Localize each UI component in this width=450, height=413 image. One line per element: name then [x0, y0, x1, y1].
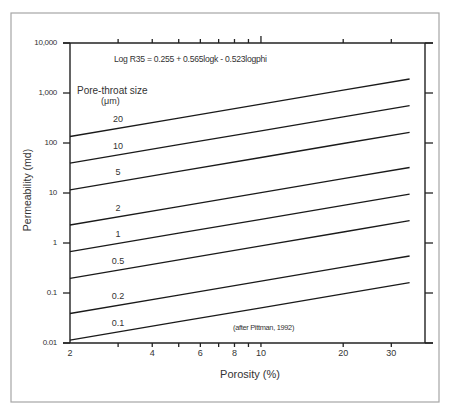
series-label: 1 [115, 229, 120, 239]
series-label: 0.5 [112, 256, 125, 266]
series-label: 5 [115, 167, 120, 177]
x-axis-label: Porosity (%) [220, 368, 280, 380]
legend-title: Pore-throat size [77, 85, 148, 96]
y-tick-label: 100 [45, 138, 58, 147]
x-tick-label: 2 [67, 348, 72, 358]
chart-figure: 10,000 1,000 100 10 1 0.1 0.01 2 4 6 8 1… [0, 0, 450, 413]
y-tick-label: 10 [49, 188, 58, 197]
x-tick-label: 30 [386, 348, 396, 358]
series-label: 2 [115, 203, 120, 213]
series-label: 0.1 [112, 318, 125, 328]
series-label: 10 [113, 141, 123, 151]
x-tick-label: 10 [256, 348, 266, 358]
source-annotation: (after Pittman, 1992) [233, 323, 294, 332]
x-tick-label: 6 [198, 348, 203, 358]
series-label: 0.2 [112, 291, 125, 301]
y-tick-label: 0.1 [47, 288, 58, 297]
series-label: 20 [113, 114, 123, 124]
y-axis-label: Permeability (md) [21, 149, 33, 231]
y-tick-label: 0.01 [43, 338, 58, 347]
y-tick-label: 10,000 [34, 38, 58, 47]
x-tick-label: 8 [232, 348, 237, 358]
x-tick-label: 4 [150, 348, 155, 358]
x-tick-label: 20 [338, 348, 348, 358]
legend-unit: (μm) [101, 96, 120, 106]
equation-annotation: Log R35 = 0.255 + 0.565logk - 0.523logph… [114, 54, 267, 64]
y-tick-label: 1,000 [38, 88, 57, 97]
